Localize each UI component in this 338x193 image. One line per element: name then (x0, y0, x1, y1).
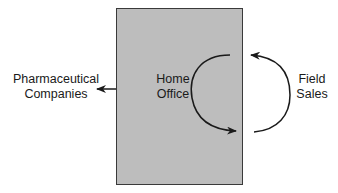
arrow-field-to-home-icon (251, 55, 290, 132)
diagram-canvas: Pharmaceutical Companies Home Office Fie… (0, 0, 338, 193)
arrows-layer (0, 0, 338, 193)
arrow-home-to-field-icon (191, 55, 236, 131)
